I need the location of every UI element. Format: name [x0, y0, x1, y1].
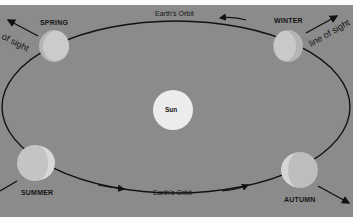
earth-autumn: [281, 152, 318, 188]
earth-spring: [39, 30, 69, 62]
season-label-summer: SUMMER: [21, 189, 53, 196]
sun-label: Sun: [165, 106, 177, 113]
season-label-autumn: AUTUMN: [284, 196, 316, 203]
line-of-sight-summer: [0, 181, 17, 191]
earth-winter: [273, 30, 303, 62]
orbit-arrow-bottom-left: [98, 185, 124, 189]
earth-summer: [17, 145, 55, 181]
season-label-spring: SPRING: [40, 19, 68, 26]
orbit-label-bottom: Earth's Orbit: [153, 189, 192, 196]
line-of-sight-autumn: [318, 186, 349, 203]
orbit-label-top: Earth's Orbit: [155, 10, 194, 17]
season-label-winter: WINTER: [274, 17, 303, 24]
line-of-sight-arrow-spring: [8, 20, 38, 36]
orbit-diagram: Earth's Orbit Earth's Orbit Sun SPRING W…: [0, 5, 353, 217]
orbit-arrow-top: [220, 17, 246, 20]
